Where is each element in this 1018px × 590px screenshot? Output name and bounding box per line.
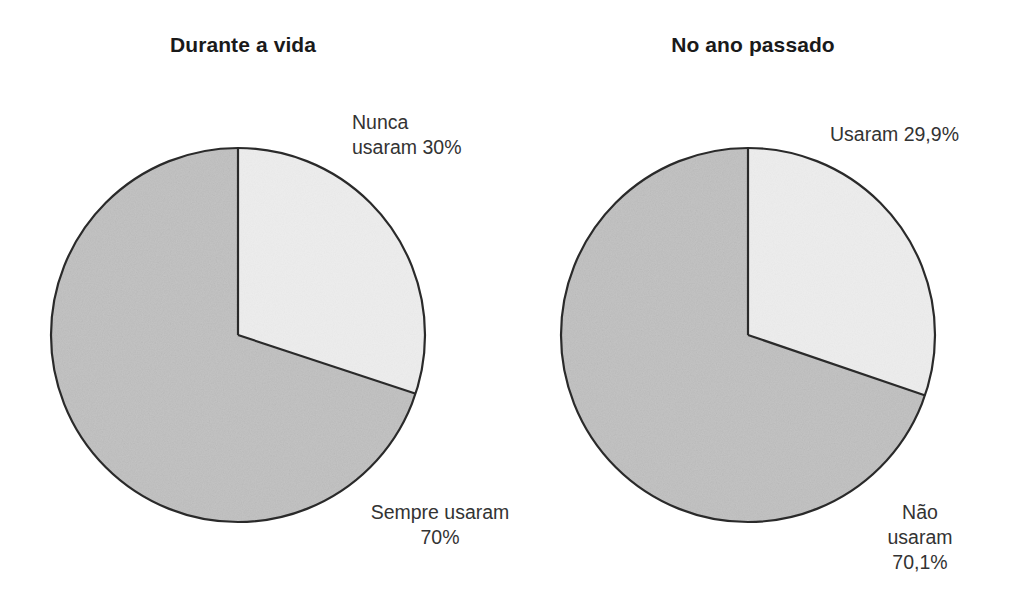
pie-right-graphic	[0, 0, 1018, 590]
pie-right-label-major: Não usaram 70,1%	[871, 500, 969, 575]
pie-right-label-minor: Usaram 29,9%	[830, 122, 959, 147]
pie-chart-figure: Durante a vida	[0, 0, 1018, 590]
